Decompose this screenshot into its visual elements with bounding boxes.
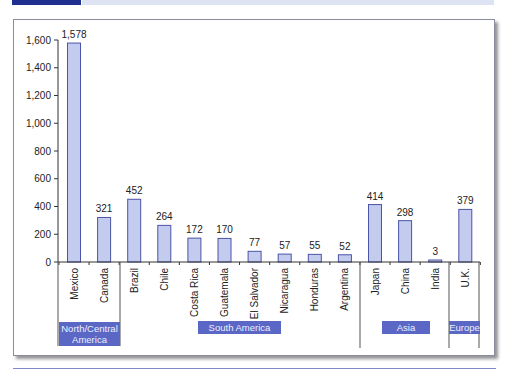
value-label: 414 <box>367 191 384 202</box>
category-label: Mexico <box>69 268 80 300</box>
y-tick-label: 200 <box>34 229 51 240</box>
bar-costa-rica <box>188 238 201 262</box>
bar-mexico <box>68 43 81 262</box>
value-label: 77 <box>249 237 261 248</box>
category-label: U.K. <box>460 268 471 287</box>
y-tick-label: 600 <box>34 173 51 184</box>
bar-argentina <box>338 255 351 262</box>
group-label-text: America <box>72 334 108 345</box>
value-label: 1,578 <box>61 29 86 40</box>
value-label: 172 <box>186 224 203 235</box>
bar-honduras <box>308 254 321 262</box>
category-label: Brazil <box>129 268 140 293</box>
category-label: Honduras <box>309 268 320 311</box>
bar-china <box>399 221 412 262</box>
group-label-text: South America <box>209 322 271 333</box>
y-tick-label: 1,000 <box>26 118 51 129</box>
bar-el-salvador <box>248 251 261 262</box>
y-axis: 02004006008001,0001,2001,4001,600 <box>26 35 58 268</box>
value-label: 379 <box>457 195 474 206</box>
y-tick-label: 1,400 <box>26 62 51 73</box>
value-label: 264 <box>156 211 173 222</box>
value-label: 55 <box>309 240 321 251</box>
bar-nicaragua <box>278 254 291 262</box>
y-tick-label: 800 <box>34 146 51 157</box>
bar-u-k- <box>459 209 472 262</box>
group-label-text: Asia <box>397 322 416 333</box>
bar-canada <box>98 217 111 262</box>
group-label-text: Europe <box>449 322 480 333</box>
category-label: Japan <box>370 268 381 295</box>
bar-guatemala <box>218 238 231 262</box>
category-label: Chile <box>159 268 170 291</box>
value-label: 57 <box>279 240 291 251</box>
value-label: 452 <box>126 185 143 196</box>
value-label: 170 <box>216 224 233 235</box>
value-label: 321 <box>96 203 113 214</box>
value-label: 3 <box>432 246 438 257</box>
category-label: China <box>400 268 411 295</box>
category-label: El Salvador <box>249 267 260 319</box>
y-tick-label: 400 <box>34 201 51 212</box>
bottom-rule <box>13 368 496 369</box>
bar-brazil <box>128 199 141 262</box>
bar-chile <box>158 225 171 262</box>
category-label: Argentina <box>339 268 350 311</box>
group-label-text: North/Central <box>61 323 118 334</box>
category-label: India <box>430 268 441 290</box>
group-labels: North/CentralAmericaSouth AmericaAsiaEur… <box>58 262 480 348</box>
y-tick-label: 1,600 <box>26 35 51 46</box>
category-label: Costa Rica <box>189 268 200 317</box>
y-tick-label: 1,200 <box>26 90 51 101</box>
category-label: Canada <box>99 268 110 303</box>
y-tick-label: 0 <box>45 257 51 268</box>
category-label: Guatemala <box>219 268 230 317</box>
value-label: 52 <box>339 241 351 252</box>
x-axis: MexicoCanadaBrazilChileCosta RicaGuatema… <box>58 262 480 319</box>
value-label: 298 <box>397 207 414 218</box>
bars: 1,578321452264172170775755524142983379 <box>61 29 474 262</box>
bar-chart: 02004006008001,0001,2001,4001,600 1,5783… <box>0 0 509 371</box>
bar-japan <box>369 205 382 262</box>
category-label: Nicaragua <box>279 268 290 314</box>
